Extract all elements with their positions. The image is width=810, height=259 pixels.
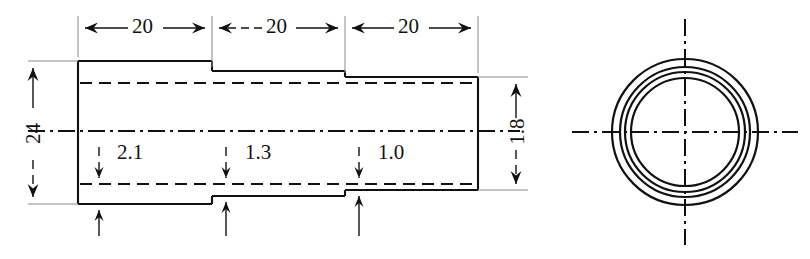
wall-thickness-label-right: 1.0 <box>378 142 404 163</box>
height-dimension-label: 24 <box>23 117 44 151</box>
extension-lines <box>28 16 528 204</box>
length-dimension-label-1: 20 <box>132 16 153 37</box>
bore-dimension-label: 1.8 <box>507 113 528 151</box>
wall-thickness-label-left: 2.1 <box>117 142 143 163</box>
wall-thickness-label-middle: 1.3 <box>245 142 271 163</box>
section-hidden-bore-lines <box>80 83 476 184</box>
end-view-center-lines <box>572 19 798 245</box>
drawing-vector-layer <box>0 0 810 259</box>
length-dimension-label-2: 20 <box>266 16 287 37</box>
length-dimension-label-3: 20 <box>398 16 419 37</box>
engineering-drawing-canvas: 20 20 20 24 1.8 2.1 1.3 1.0 <box>0 0 810 259</box>
